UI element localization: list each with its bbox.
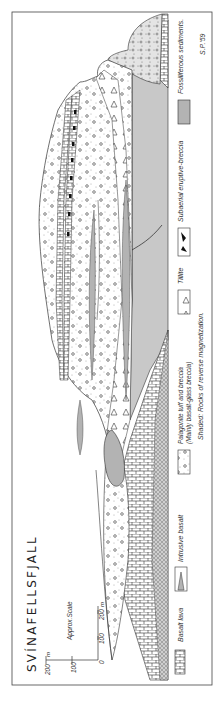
legend-swatch-palagonite xyxy=(178,450,190,474)
cross-section-body xyxy=(39,14,168,680)
scale-label: Approx.Scale xyxy=(66,601,74,641)
legend-label-subaerial-breccia: Subaerial eruptive-breccia xyxy=(177,141,185,222)
signature: S.P.'59 xyxy=(199,33,206,55)
legend-label-intrusive-basalt: Intrusive basalt xyxy=(177,514,184,562)
scale-tick-100-h: 100 xyxy=(98,633,105,644)
page-title: SVÍNAFELLSFJALL xyxy=(24,535,39,672)
legend-swatch-subaerial-breccia xyxy=(178,228,190,256)
legend-label-fossiliferous: Fossiliferous sediments. xyxy=(177,19,184,94)
legend-swatch-fossiliferous xyxy=(178,100,190,124)
scale-unit-m-horizontal: m xyxy=(99,602,105,607)
legend-swatch-basalt-lava xyxy=(175,650,185,674)
legend: Basalt lava Intrusive basalt Palagonite … xyxy=(175,19,205,674)
legend-sublabel-palagonite: (Mainly basalt-glass breccia) xyxy=(185,362,193,444)
geological-cross-section: Basalt lava Intrusive basalt Palagonite … xyxy=(0,0,224,702)
scale-bar: Approx.Scale 200 m 100 0 100 200 m xyxy=(44,601,105,676)
scale-tick-100: 100 xyxy=(70,662,77,673)
legend-label-tillite: Tillite xyxy=(177,268,184,284)
legend-note: Shaded: Rocks of reverse magnetization. xyxy=(197,312,205,440)
legend-label-palagonite: Palagonite tuff and breccia xyxy=(177,367,185,444)
legend-swatch-tillite xyxy=(178,290,190,314)
scale-tick-0: 0 xyxy=(98,660,105,664)
legend-label-basalt-lava: Basalt lava xyxy=(177,608,184,642)
scale-unit-m-vertical: m xyxy=(45,652,51,657)
scale-tick-200m: 200 xyxy=(44,664,51,676)
scale-tick-200-h: 200 xyxy=(98,609,105,621)
reverse-lens-3 xyxy=(77,400,83,455)
